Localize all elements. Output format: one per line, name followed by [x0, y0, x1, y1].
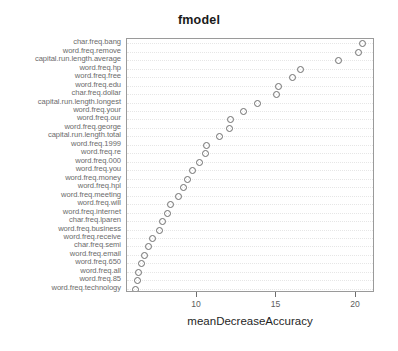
data-point [275, 83, 282, 90]
gridline [127, 77, 373, 78]
gridline [127, 238, 373, 239]
data-point [359, 40, 366, 47]
y-axis-label: word.freq.will [77, 199, 121, 207]
data-point [226, 125, 233, 132]
data-point [355, 49, 362, 56]
x-axis-tick [196, 292, 197, 297]
gridline [127, 94, 373, 95]
y-axis-label: word.freq.remove [63, 47, 121, 55]
gridline [127, 162, 373, 163]
x-axis-tick [275, 292, 276, 297]
y-axis-label: word.freq.650 [75, 259, 121, 267]
data-point [167, 201, 174, 208]
gridline [127, 43, 373, 44]
gridline [127, 145, 373, 146]
y-axis-label: word.freq.your [73, 106, 121, 114]
gridline [127, 204, 373, 205]
y-axis-label: word.freq.meeting [61, 191, 121, 199]
x-axis-tick-label: 20 [350, 299, 360, 309]
y-axis-label: word.freq.hpl [78, 182, 121, 190]
y-axis-label: word.freq.85 [79, 276, 121, 284]
data-point [156, 227, 163, 234]
data-point [180, 184, 187, 191]
data-point [202, 150, 209, 157]
x-axis-title: meanDecreaseAccuracy [126, 315, 374, 327]
gridline [127, 86, 373, 87]
y-axis-label: char.freq.semi [74, 242, 121, 250]
data-point [196, 159, 203, 166]
y-axis-label: word.freq.receive [64, 233, 121, 241]
x-axis-tick [355, 292, 356, 297]
y-axis-label: word.freq.you [76, 165, 121, 173]
y-axis-label: char.freq.dollar [72, 89, 121, 97]
chart-canvas: fmodel char.freq.bangword.freq.removecap… [0, 0, 398, 351]
y-axis-label: word.freq.george [64, 123, 121, 131]
gridline [127, 289, 373, 290]
y-axis-label: word.freq.money [65, 174, 121, 182]
gridline [127, 52, 373, 53]
y-axis-label: word.freq.technology [52, 284, 122, 292]
gridline [127, 179, 373, 180]
gridline [127, 196, 373, 197]
gridline [127, 119, 373, 120]
y-axis-label: char.freq.bang [73, 38, 121, 46]
gridline [127, 280, 373, 281]
y-axis-label: capital.run.length.longest [38, 98, 121, 106]
y-axis-label: word.freq.edu [75, 81, 121, 89]
data-point [184, 176, 191, 183]
data-point [335, 57, 342, 64]
gridline [127, 128, 373, 129]
gridline [127, 103, 373, 104]
y-axis-category-labels: char.freq.bangword.freq.removecapital.ru… [0, 38, 123, 292]
y-axis-label: word.freq.email [70, 250, 121, 258]
data-point [175, 193, 182, 200]
gridline [127, 230, 373, 231]
x-axis-tick-label: 10 [191, 299, 201, 309]
y-axis-label: word.freq.free [75, 72, 121, 80]
gridline [127, 136, 373, 137]
data-point [135, 269, 142, 276]
gridline [127, 246, 373, 247]
gridline [127, 272, 373, 273]
y-axis-label: word.freq.all [80, 267, 121, 275]
data-point [164, 210, 171, 217]
y-axis-label: word.freq.our [77, 115, 121, 123]
data-point [227, 116, 234, 123]
data-point [141, 252, 148, 259]
data-point [203, 142, 210, 149]
gridline [127, 263, 373, 264]
y-axis-label: word.freq.internet [63, 208, 121, 216]
data-point [134, 277, 141, 284]
x-axis-tick-label: 15 [271, 299, 281, 309]
data-point [289, 74, 296, 81]
data-point [240, 108, 247, 115]
page-title: fmodel [0, 13, 398, 27]
data-point [297, 66, 304, 73]
data-point [189, 167, 196, 174]
gridline [127, 69, 373, 70]
y-axis-label: word.freq.1999 [71, 140, 121, 148]
y-axis-label: char.freq.lparen [69, 216, 121, 224]
y-axis-label: word.freq.business [58, 225, 121, 233]
gridline [127, 187, 373, 188]
plot-area [126, 38, 374, 292]
data-point [159, 218, 166, 225]
y-axis-label: capital.run.length.total [48, 132, 121, 140]
data-point [254, 100, 261, 107]
x-axis: 101520 [126, 292, 374, 293]
gridline [127, 170, 373, 171]
y-axis-label: capital.run.length.average [35, 55, 121, 63]
data-point [138, 260, 145, 267]
data-point [273, 91, 280, 98]
y-axis-label: word.freq.hp [79, 64, 121, 72]
y-axis-label: word.freq.re [81, 149, 121, 157]
data-point [149, 235, 156, 242]
data-point [145, 243, 152, 250]
data-point [216, 133, 223, 140]
gridline [127, 111, 373, 112]
y-axis-label: word.freq.000 [75, 157, 121, 165]
gridline [127, 153, 373, 154]
gridline [127, 255, 373, 256]
